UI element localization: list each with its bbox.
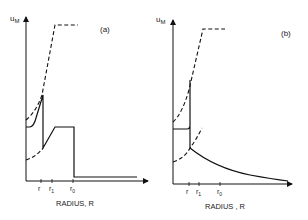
dashed-curve-upper-b xyxy=(173,29,225,122)
dashed-curve-upper-a xyxy=(26,25,78,120)
tick-label-r-b: r xyxy=(186,188,189,195)
figure: uM (a) r r1 r0 RADIUS, R uM (b) r r1 r0 … xyxy=(0,0,308,220)
solid-curve-b xyxy=(173,80,288,181)
panel-b: uM (b) r r1 r0 RADIUS , R xyxy=(156,15,292,211)
y-axis-label-a: uM xyxy=(10,14,19,24)
solid-curve-a xyxy=(26,95,137,177)
y-axis-label-b: uM xyxy=(156,15,165,25)
panel-label-b: (b) xyxy=(281,29,291,38)
x-axis-label-b: RADIUS , R xyxy=(205,202,246,211)
tick-label-r1-b: r1 xyxy=(196,188,201,197)
tick-label-r-a: r xyxy=(38,185,41,192)
dashed-curve-lower-a xyxy=(26,148,43,160)
tick-label-r0-b: r0 xyxy=(217,188,222,197)
dashed-curve-lower-b xyxy=(173,128,202,162)
x-axis-label-a: RADIUS, R xyxy=(56,199,95,208)
panel-label-a: (a) xyxy=(100,25,110,34)
tick-label-r0-a: r0 xyxy=(70,185,75,194)
tick-label-r1-a: r1 xyxy=(49,185,54,194)
panel-a: uM (a) r r1 r0 RADIUS, R xyxy=(10,14,148,208)
